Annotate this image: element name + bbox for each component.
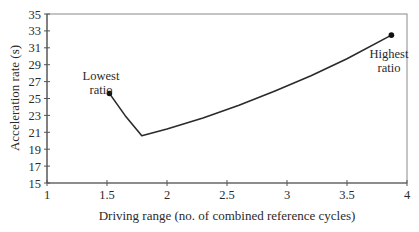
x-tick-label: 2 bbox=[164, 188, 170, 202]
y-tick-label: 23 bbox=[29, 109, 42, 123]
annotation-label: Lowestratio bbox=[83, 69, 120, 97]
plot-frame bbox=[47, 14, 407, 183]
x-tick-label: 1 bbox=[44, 188, 50, 202]
annotation-label: Highestratio bbox=[370, 47, 409, 75]
y-tick-label: 21 bbox=[29, 126, 42, 140]
x-tick-label: 1.5 bbox=[99, 188, 115, 202]
y-tick-label: 15 bbox=[29, 177, 42, 191]
x-tick-label: 3 bbox=[284, 188, 290, 202]
y-tick-label: 27 bbox=[29, 75, 42, 89]
x-tick-label: 4 bbox=[404, 188, 411, 202]
y-tick-label: 19 bbox=[29, 143, 42, 157]
endpoint-marker bbox=[389, 32, 395, 38]
annotations: LowestratioHighestratio bbox=[83, 47, 409, 97]
x-tick-label: 3.5 bbox=[339, 188, 355, 202]
series-line bbox=[109, 35, 391, 136]
x-axis-label: Driving range (no. of combined reference… bbox=[99, 208, 356, 223]
data-markers bbox=[107, 32, 395, 96]
line-chart: 1517192123252729313335 11.522.533.54 Low… bbox=[0, 0, 419, 232]
y-tick-label: 17 bbox=[29, 160, 42, 174]
y-tick-label: 35 bbox=[29, 8, 42, 22]
y-axis-label: Acceleration rate (s) bbox=[7, 45, 22, 151]
data-series bbox=[109, 35, 391, 136]
y-tick-label: 33 bbox=[29, 24, 42, 38]
x-tick-label: 2.5 bbox=[219, 188, 235, 202]
y-tick-label: 29 bbox=[29, 58, 42, 72]
y-tick-label: 31 bbox=[29, 41, 42, 55]
chart-container: 1517192123252729313335 11.522.533.54 Low… bbox=[0, 0, 419, 232]
y-tick-label: 25 bbox=[29, 92, 42, 106]
